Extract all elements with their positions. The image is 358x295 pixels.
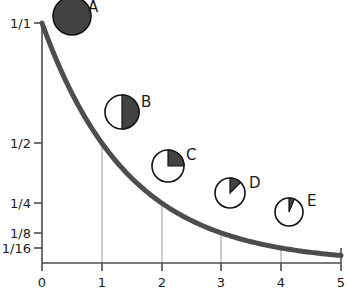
annotation-label-D: D — [249, 174, 261, 192]
y-tick-label-1-2: 1/2 — [10, 136, 31, 151]
x-tick-label-2: 2 — [158, 275, 166, 290]
annotation-label-B: B — [141, 93, 151, 111]
annotation-label-A: A — [88, 0, 99, 16]
x-tick-label-5: 5 — [337, 275, 345, 290]
y-tick-label-1-16: 1/16 — [2, 241, 31, 256]
x-tick-label-0: 0 — [38, 275, 46, 290]
y-tick-label-1-1: 1/1 — [10, 16, 31, 31]
x-tick-label-1: 1 — [98, 275, 106, 290]
x-tick-label-3: 3 — [217, 275, 225, 290]
y-tick-label-1-8: 1/8 — [10, 226, 31, 241]
pie-circle-A — [53, 0, 91, 35]
decay-chart: 1/1 1/2 1/4 1/8 1/16 0 1 2 3 4 5 A B — [0, 0, 358, 295]
annotation-label-C: C — [186, 146, 196, 164]
x-tick-label-4: 4 — [277, 275, 285, 290]
annotation-label-E: E — [307, 192, 316, 210]
y-tick-label-1-4: 1/4 — [10, 196, 31, 211]
